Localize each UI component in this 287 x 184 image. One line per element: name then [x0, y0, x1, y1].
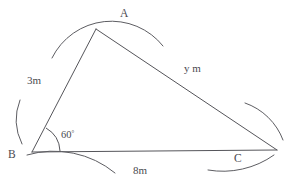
angle-value: 60 — [61, 129, 72, 140]
geometry-diagram: A B C 3m y m 8m 60° — [0, 0, 287, 184]
construction-arc-b-upper — [16, 100, 22, 144]
side-label-ab: 3m — [27, 74, 42, 86]
vertex-label-a: A — [120, 7, 129, 19]
side-label-bc: 8m — [133, 164, 148, 176]
angle-label-b: 60° — [61, 129, 75, 140]
angle-arc-b — [46, 128, 60, 151]
triangle-side-ac — [96, 29, 277, 150]
construction-arc-c-upper — [245, 103, 283, 140]
side-label-ac: y m — [184, 62, 201, 74]
triangle-figure: A B C 3m y m 8m 60° — [0, 0, 287, 184]
vertex-label-b: B — [8, 148, 16, 160]
vertex-label-c: C — [234, 152, 242, 164]
degree-symbol: ° — [72, 129, 75, 137]
construction-arc-a — [52, 21, 163, 58]
construction-arc-b-lower — [27, 151, 115, 173]
